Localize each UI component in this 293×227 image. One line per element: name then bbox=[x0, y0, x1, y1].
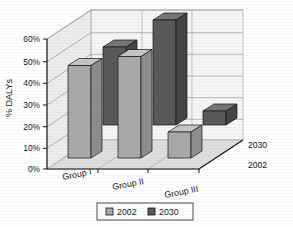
y-tick-0: 0% bbox=[28, 164, 41, 174]
x-axis-ticks bbox=[98, 169, 199, 173]
y-tick-20: 20% bbox=[23, 122, 40, 132]
y-tick-40: 40% bbox=[23, 78, 40, 88]
y-tick-60: 60% bbox=[23, 34, 40, 44]
bar-chart-3d: 60% 50% 40% 30% 20% 10% 0% % DALYs Group… bbox=[0, 0, 293, 227]
y-axis-ticks bbox=[43, 39, 47, 169]
depth-label-2002: 2002 bbox=[248, 160, 267, 170]
bar-group-ii-2030[interactable] bbox=[153, 13, 187, 125]
bar-group-ii-2002[interactable] bbox=[118, 50, 152, 159]
category-label-group-iii: Group III bbox=[163, 184, 199, 200]
legend-swatch-2030 bbox=[148, 208, 155, 215]
bar-side bbox=[141, 50, 152, 159]
bar-front bbox=[68, 66, 91, 159]
depth-label-2030: 2030 bbox=[248, 140, 267, 150]
chart-container: 60% 50% 40% 30% 20% 10% 0% % DALYs Group… bbox=[0, 0, 293, 227]
x-axis-category-labels: Group I Group II Group III bbox=[61, 167, 199, 200]
legend-label-2002: 2002 bbox=[117, 207, 137, 217]
depth-axis-labels: 2030 2002 bbox=[248, 140, 267, 170]
category-label-group-ii: Group II bbox=[111, 176, 144, 192]
bar-group-i-2002[interactable] bbox=[68, 59, 102, 159]
legend: 2002 2030 bbox=[97, 203, 193, 220]
y-tick-10: 10% bbox=[23, 143, 40, 153]
legend-swatch-2002 bbox=[106, 208, 113, 215]
bar-side bbox=[91, 59, 102, 159]
y-axis-title: % DALYs bbox=[4, 79, 14, 117]
bar-front bbox=[118, 57, 141, 159]
legend-label-2030: 2030 bbox=[159, 207, 179, 217]
bar-front bbox=[168, 132, 191, 158]
y-tick-30: 30% bbox=[23, 100, 40, 110]
bar-side bbox=[176, 13, 187, 125]
bar-front bbox=[203, 111, 226, 125]
y-axis-tick-labels: 60% 50% 40% 30% 20% 10% 0% bbox=[23, 34, 40, 174]
bar-group-iii-2002[interactable] bbox=[168, 125, 202, 158]
bar-front bbox=[153, 20, 176, 125]
y-tick-50: 50% bbox=[23, 57, 40, 67]
